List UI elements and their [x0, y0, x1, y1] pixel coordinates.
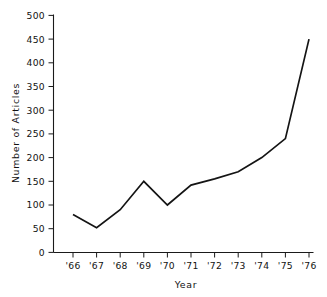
y-tick-label-450: 450 [27, 34, 45, 45]
x-axis-ticks [73, 253, 309, 258]
x-tick-label-74: '74 [254, 260, 269, 271]
chart-figure: 500 450 400 350 300 250 200 150 100 50 0 [0, 0, 327, 297]
y-axis-ticks [49, 15, 54, 252]
x-axis-title: Year [174, 279, 198, 290]
x-tick-label-75: '75 [278, 260, 293, 271]
axis-spines [54, 15, 314, 253]
y-tick-label-0: 0 [39, 247, 45, 258]
y-tick-label-100: 100 [27, 199, 45, 210]
y-tick-label-300: 300 [27, 105, 45, 116]
line-chart-canvas: 500 450 400 350 300 250 200 150 100 50 0 [0, 0, 327, 297]
y-tick-label-250: 250 [27, 128, 45, 139]
y-tick-label-150: 150 [27, 176, 45, 187]
x-tick-label-67: '67 [89, 260, 104, 271]
y-tick-label-50: 50 [33, 223, 45, 234]
x-tick-label-66: '66 [65, 260, 80, 271]
y-axis-title: Number of Articles [10, 83, 21, 183]
x-axis-tick-labels: '66 '67 '68 '69 '70 '71 '72 '73 '74 '75 … [65, 260, 316, 271]
x-tick-label-69: '69 [136, 260, 151, 271]
x-tick-label-71: '71 [183, 260, 198, 271]
y-tick-label-500: 500 [27, 10, 45, 21]
x-tick-label-70: '70 [160, 260, 175, 271]
x-tick-label-68: '68 [113, 260, 128, 271]
x-tick-label-76: '76 [301, 260, 316, 271]
y-axis-tick-labels: 500 450 400 350 300 250 200 150 100 50 0 [27, 10, 45, 258]
y-tick-label-400: 400 [27, 57, 45, 68]
data-series-line [73, 39, 309, 228]
y-tick-label-200: 200 [27, 152, 45, 163]
x-tick-label-72: '72 [207, 260, 222, 271]
x-tick-label-73: '73 [231, 260, 246, 271]
y-tick-label-350: 350 [27, 81, 45, 92]
